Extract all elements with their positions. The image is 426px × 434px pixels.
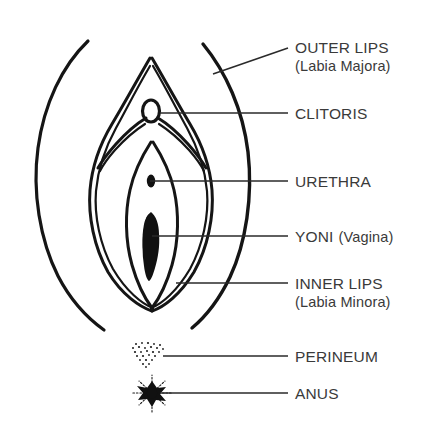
- perineum-shape: [132, 342, 164, 368]
- label-urethra-primary: URETHRA: [295, 172, 371, 191]
- label-inner-lips-secondary: (Labia Minora): [295, 293, 391, 312]
- outer-lip-left-shape: [36, 41, 104, 330]
- label-anus-primary: ANUS: [295, 384, 339, 403]
- outer-lip-right-shape: [192, 44, 250, 328]
- anatomy-diagram: OUTER LIPS (Labia Majora) CLITORIS URETH…: [0, 0, 426, 434]
- label-outer-lips-primary: OUTER LIPS: [295, 38, 391, 57]
- label-anus: ANUS: [295, 384, 339, 403]
- label-inner-lips-primary: INNER LIPS: [295, 274, 391, 293]
- label-perineum-primary: PERINEUM: [295, 347, 378, 366]
- label-outer-lips-secondary: (Labia Majora): [295, 57, 391, 76]
- clitoris-shape: [143, 100, 160, 122]
- label-inner-lips: INNER LIPS (Labia Minora): [295, 274, 391, 312]
- vaginal-opening-shape: [143, 212, 160, 281]
- label-yoni: YONI(Vagina): [295, 227, 393, 247]
- label-clitoris: CLITORIS: [295, 104, 367, 123]
- label-yoni-primary: YONI: [295, 228, 334, 245]
- label-clitoris-primary: CLITORIS: [295, 104, 367, 123]
- label-urethra: URETHRA: [295, 172, 371, 191]
- label-perineum: PERINEUM: [295, 347, 378, 366]
- label-outer-lips: OUTER LIPS (Labia Majora): [295, 38, 391, 76]
- leader-outer-lips: [213, 48, 288, 74]
- label-yoni-secondary: (Vagina): [339, 229, 394, 245]
